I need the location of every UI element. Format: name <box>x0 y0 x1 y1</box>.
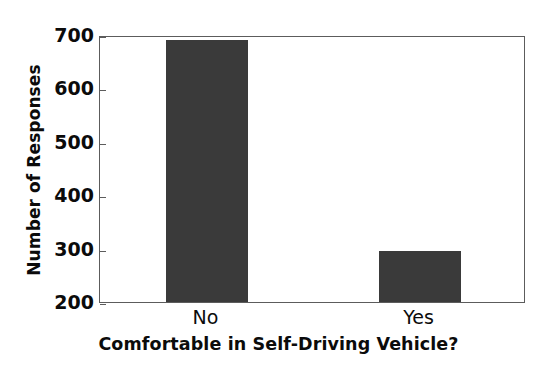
y-axis-tick-mark <box>100 144 106 145</box>
y-axis-tick-mark <box>100 304 106 305</box>
x-axis-tick-label: No <box>193 307 219 329</box>
y-axis-tick-mark <box>100 197 106 198</box>
y-axis-tick-label: 300 <box>44 240 94 259</box>
y-axis-tick-mark <box>100 251 106 252</box>
chart-figure: Number of Responses 700600500400300200 N… <box>0 0 557 372</box>
bar-yes <box>379 251 461 302</box>
x-axis-tick-label: Yes <box>403 307 434 329</box>
bar-no <box>166 40 248 302</box>
x-axis-tick-labels: NoYes <box>99 307 525 333</box>
y-axis-tick-label: 700 <box>44 26 94 45</box>
y-axis-tick-labels: 700600500400300200 <box>44 0 94 372</box>
y-axis-tick-label: 500 <box>44 133 94 152</box>
y-axis-tick-label: 200 <box>44 293 94 312</box>
y-axis-tick-label: 600 <box>44 79 94 98</box>
plot-area <box>99 36 525 303</box>
y-axis-tick-mark <box>100 37 106 38</box>
y-axis-tick-label: 400 <box>44 186 94 205</box>
x-axis-title: Comfortable in Self-Driving Vehicle? <box>0 334 557 354</box>
y-axis-tick-mark <box>100 90 106 91</box>
